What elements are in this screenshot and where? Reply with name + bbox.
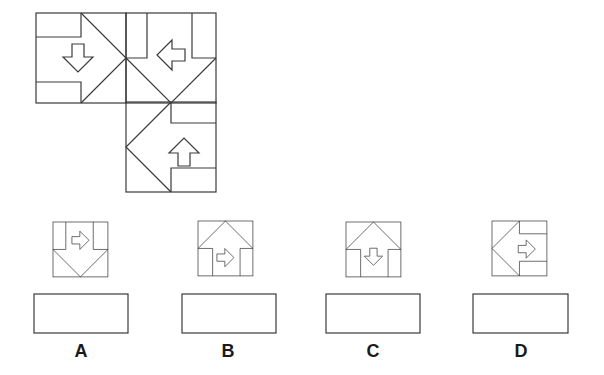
grid-cell-top-right [126,13,216,103]
option-d-figure[interactable] [492,221,547,276]
puzzle-figure [0,0,604,375]
option-d-answer-box[interactable] [473,294,568,333]
option-b-label: B [213,341,243,362]
option-d-label: D [506,341,536,362]
option-a-label: A [66,341,96,362]
option-a-answer-box[interactable] [34,294,128,333]
option-c-answer-box[interactable] [326,294,420,333]
grid-cell-top-left [36,13,126,103]
option-a-figure[interactable] [53,222,108,277]
option-c-label: C [358,341,388,362]
grid-cell-bottom-right [126,102,216,192]
option-b-figure[interactable] [198,221,253,276]
option-c-figure[interactable] [346,222,401,277]
option-b-answer-box[interactable] [182,294,276,333]
